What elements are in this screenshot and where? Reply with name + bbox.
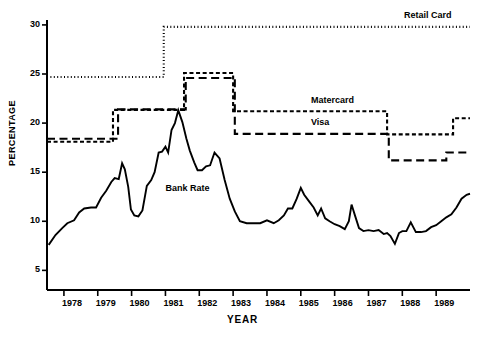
chart-plot-area	[0, 0, 485, 341]
series-label-retail-card: Retail Card	[404, 11, 452, 20]
y-axis-title: PERCENTAGE	[7, 97, 17, 169]
y-axis-tick-label: 25	[14, 69, 40, 78]
axes	[47, 20, 470, 290]
chart-container: PERCENTAGE YEAR 51015202530 197819791980…	[0, 0, 485, 341]
y-axis-tick-label: 10	[14, 216, 40, 225]
series-label-matercard: Matercard	[311, 96, 354, 105]
series-line-retail-card	[47, 27, 470, 77]
series-line-visa	[47, 78, 470, 160]
series-line-matercard	[47, 73, 470, 142]
x-axis-tick-label: 1989	[423, 299, 465, 308]
data-series-group	[47, 27, 470, 245]
y-axis-tick-label: 30	[14, 20, 40, 29]
y-axis-tick-label: 15	[14, 167, 40, 176]
y-axis-tick-label: 20	[14, 118, 40, 127]
series-label-bank-rate: Bank Rate	[165, 184, 209, 193]
x-axis-title: YEAR	[0, 314, 485, 325]
y-axis-tick-label: 5	[14, 265, 40, 274]
series-line-bank-rate	[49, 110, 470, 245]
series-label-visa: Visa	[311, 118, 329, 127]
